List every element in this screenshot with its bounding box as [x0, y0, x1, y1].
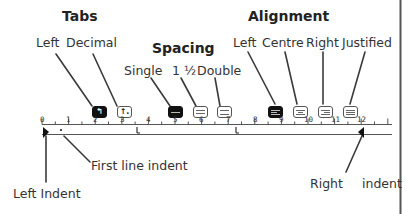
first-line-indent-label: First line indent	[91, 158, 188, 173]
align-centre-label: Centre	[262, 35, 304, 50]
left-indent-label: Left Indent	[13, 186, 81, 201]
one-half-spacing-icon	[196, 110, 205, 114]
align-justified-label: Justified	[342, 35, 392, 50]
ruler-number: 8	[253, 115, 258, 124]
right-indent-label-right: Right	[310, 176, 343, 191]
tab-stop-marker[interactable]	[134, 126, 142, 135]
alignment-title: Alignment	[248, 8, 329, 24]
align-centre-icon	[296, 110, 305, 115]
align-right-label: Right	[306, 35, 339, 50]
ruler-number: 11	[331, 115, 340, 124]
align-left-icon	[271, 110, 280, 115]
right-indent-marker[interactable]	[356, 126, 366, 139]
align-right-icon	[321, 110, 330, 115]
ruler-number: 12	[357, 115, 366, 124]
tabs-title: Tabs	[62, 8, 98, 24]
ruler-number: 3	[120, 115, 125, 124]
ruler-number: 9	[279, 115, 284, 124]
align-justified-icon	[346, 110, 355, 115]
ruler-number: 5	[173, 115, 178, 124]
tab-left-label: Left	[36, 35, 60, 50]
spacing-title: Spacing	[152, 40, 215, 56]
ruler-number: 0	[40, 115, 45, 124]
ruler-number: 7	[226, 115, 231, 124]
left-indent-marker[interactable]	[41, 126, 51, 139]
ruler-number: 6	[199, 115, 204, 124]
ruler-number: 4	[146, 115, 151, 124]
spacing-single-label: Single	[124, 63, 162, 78]
ruler-number: 1	[66, 115, 71, 124]
spacing-one-half-label: 1 ½	[172, 63, 196, 78]
single-spacing-icon	[171, 112, 180, 113]
align-justified-button[interactable]	[343, 106, 358, 118]
double-spacing-icon	[220, 110, 229, 115]
right-indent-label-indent: indent	[362, 176, 402, 191]
tab-decimal-label: Decimal	[66, 35, 117, 50]
tab-stop-marker[interactable]	[233, 126, 241, 135]
align-left-label: Left	[233, 35, 257, 50]
first-line-indent-marker[interactable]	[58, 126, 65, 134]
spacing-double-label: Double	[197, 63, 241, 78]
ruler-number: 2	[93, 115, 98, 124]
ruler-number: 10	[304, 115, 313, 124]
